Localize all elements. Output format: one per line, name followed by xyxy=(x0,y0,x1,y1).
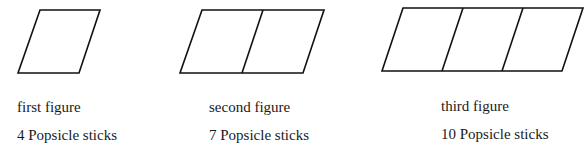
third-figure-sticks: 10 Popsicle sticks xyxy=(441,125,549,143)
second-figure-sticks: 7 Popsicle sticks xyxy=(209,126,309,144)
first-figure-shape xyxy=(18,10,100,73)
third-figure-shape xyxy=(382,8,583,71)
second-figure-label: second figure xyxy=(209,98,290,116)
third-figure-label: third figure xyxy=(441,97,509,115)
second-figure-shape xyxy=(180,10,324,73)
first-figure-sticks: 4 Popsicle sticks xyxy=(17,126,117,144)
first-figure-label: first figure xyxy=(17,98,81,116)
